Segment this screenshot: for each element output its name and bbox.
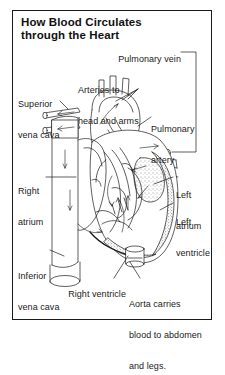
label-superior-vena-cava: Superior vena cava (18, 79, 59, 161)
label-left-ventricle: Left ventricle (176, 197, 210, 279)
label-right-atrium: Right atrium (18, 166, 43, 248)
label-right-ventricle: Right ventricle (58, 279, 126, 310)
figure-title: How Blood Circulates through the Heart (21, 16, 191, 41)
figure-title-line-1: How Blood Circulates (21, 16, 191, 29)
label-aorta: Aorta carries blood to abdomen and legs. (129, 279, 202, 375)
label-inferior-vena-cava: Inferior vena cava (18, 251, 59, 333)
label-arteries-to-head-and-arms: Arteries to head and arms (78, 65, 139, 147)
figure-title-line-2: through the Heart (21, 29, 191, 42)
